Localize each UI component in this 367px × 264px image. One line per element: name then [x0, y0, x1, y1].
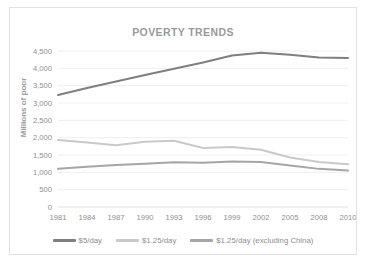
legend-swatch-icon: [53, 239, 76, 241]
legend-item[interactable]: $1.25/day (excluding China): [190, 236, 313, 245]
y-axis-tick-label: 500: [39, 185, 52, 194]
y-axis-tick-label: 3,000: [33, 99, 52, 108]
legend-swatch-icon: [190, 239, 213, 241]
x-axis-tick-label: 1999: [224, 213, 241, 222]
series-line: [58, 162, 348, 171]
y-axis-tick-label: 1,000: [33, 168, 52, 177]
series-line: [58, 140, 348, 164]
y-axis-tick-label: 4,500: [33, 47, 52, 56]
x-axis-tick-label: 1984: [79, 213, 96, 222]
x-axis-tick-label: 1996: [195, 213, 212, 222]
legend-item[interactable]: $1.25/day: [116, 236, 176, 245]
x-axis-tick-label: 1987: [108, 213, 125, 222]
legend-swatch-icon: [116, 239, 139, 241]
y-axis-tick-label: 4,000: [33, 64, 52, 73]
y-axis-tick-labels: 4,5004,0003,5003,0002,5002,0001,5001,000…: [33, 47, 52, 212]
x-axis-tick-label: 2002: [253, 213, 270, 222]
legend-label: $1.25/day (excluding China): [216, 236, 313, 245]
legend-label: $1.25/day: [142, 236, 176, 245]
legend-item[interactable]: $5/day: [53, 236, 102, 245]
x-axis-tick-labels: 1981198419871990199319961999200220052008…: [50, 213, 356, 222]
y-axis-tick-label: 1,500: [33, 151, 52, 160]
x-axis-tick-label: 1981: [50, 213, 67, 222]
gridlines: [58, 51, 348, 207]
y-axis-tick-label: 3,500: [33, 81, 52, 90]
chart-container: POVERTY TRENDS Millions of poor 4,5004,0…: [9, 7, 357, 255]
chart-legend: $5/day$1.25/day$1.25/day (excluding Chin…: [10, 236, 356, 245]
x-axis-tick-label: 2010: [340, 213, 356, 222]
x-axis-tick-label: 2005: [282, 213, 299, 222]
series-line: [58, 53, 348, 95]
series-lines: [58, 53, 348, 171]
x-axis-tick-label: 2008: [311, 213, 328, 222]
x-axis-tick-label: 1993: [166, 213, 183, 222]
y-axis-tick-label: 2,500: [33, 116, 52, 125]
y-axis-tick-label: 2,000: [33, 133, 52, 142]
y-axis-tick-label: 0: [48, 203, 52, 212]
chart-plot-area: 4,5004,0003,5003,0002,5002,0001,5001,000…: [10, 8, 356, 254]
legend-label: $5/day: [79, 236, 102, 245]
x-axis-tick-label: 1990: [137, 213, 154, 222]
